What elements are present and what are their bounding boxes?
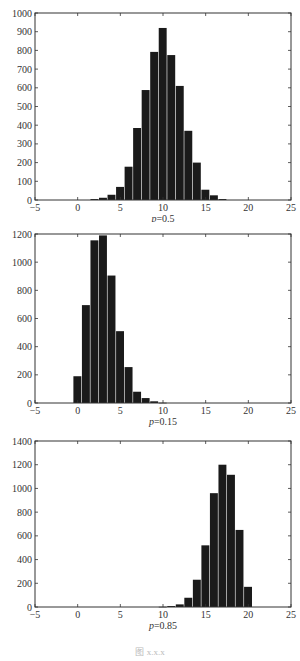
x-tick-label: 0 (75, 405, 80, 416)
histogram-bar (218, 465, 226, 607)
histogram-bar (133, 392, 141, 403)
histogram-bar (99, 235, 107, 403)
y-tick-label: 1000 (12, 257, 32, 268)
y-tick-label: 600 (17, 313, 32, 324)
x-tick-label: 20 (243, 202, 253, 213)
x-tick-label: 10 (158, 609, 168, 620)
subplot-caption: p=0.5 (150, 213, 174, 222)
y-tick-label: 900 (17, 26, 32, 37)
histogram-bar (142, 398, 150, 403)
histogram-bar (184, 131, 192, 200)
y-tick-label: 200 (17, 369, 32, 380)
histogram-bar (108, 276, 116, 403)
y-tick-label: 800 (17, 507, 32, 518)
y-tick-label: 1000 (12, 8, 32, 19)
x-tick-label: 15 (201, 202, 211, 213)
y-tick-label: 800 (17, 45, 32, 56)
y-tick-label: 400 (17, 554, 32, 565)
histogram-bar (184, 598, 192, 607)
histogram-bar (82, 305, 90, 403)
y-tick-label: 1400 (12, 436, 32, 447)
y-tick-label: 1200 (12, 229, 32, 240)
y-tick-label: 400 (17, 341, 32, 352)
y-tick-label: 100 (17, 176, 32, 187)
histogram-bar (159, 28, 167, 200)
histogram-bar (227, 475, 235, 607)
y-tick-label: 0 (27, 398, 32, 409)
x-tick-label: 10 (158, 405, 168, 416)
histogram-p-0-15: −50510152025020040060080010001200p=0.15 (0, 222, 300, 428)
y-tick-label: 300 (17, 138, 32, 149)
y-tick-label: 500 (17, 101, 32, 112)
x-tick-label: 25 (286, 609, 296, 620)
x-tick-label: 0 (75, 609, 80, 620)
y-tick-label: 600 (17, 530, 32, 541)
subplot-caption: p=0.85 (148, 620, 177, 631)
x-tick-label: 5 (118, 202, 123, 213)
x-tick-label: 15 (201, 405, 211, 416)
histogram-bar (73, 376, 81, 403)
histogram-plot-area: −50510152025020040060080010001200p=0.15 (0, 222, 300, 428)
x-tick-label: 20 (243, 609, 253, 620)
x-tick-label: 0 (75, 202, 80, 213)
histogram-p-0-5: −505101520250100200300400500600700800900… (0, 0, 300, 222)
y-tick-label: 600 (17, 82, 32, 93)
x-tick-label: 5 (118, 405, 123, 416)
histogram-plot-area: −505101520250200400600800100012001400p=0… (0, 428, 300, 638)
histogram-plot-area: −505101520250100200300400500600700800900… (0, 0, 300, 222)
x-tick-label: 20 (243, 405, 253, 416)
subplot-caption: p=0.15 (148, 416, 177, 427)
histogram-bar (125, 367, 133, 403)
y-tick-label: 200 (17, 578, 32, 589)
y-tick-label: 800 (17, 285, 32, 296)
x-tick-label: 25 (286, 405, 296, 416)
histogram-bar (236, 530, 244, 607)
histogram-bar (150, 52, 158, 200)
histogram-bar (193, 580, 201, 607)
y-tick-label: 1200 (12, 459, 32, 470)
histogram-bar (108, 195, 116, 200)
histogram-bar (116, 331, 124, 403)
histogram-bar (133, 128, 141, 200)
y-tick-label: 0 (27, 195, 32, 206)
figure-caption: 图 x.x.x (0, 645, 300, 658)
x-tick-label: 5 (118, 609, 123, 620)
y-tick-label: 200 (17, 157, 32, 168)
histogram-bar (176, 86, 184, 200)
histogram-bar (167, 55, 175, 200)
y-tick-label: 0 (27, 602, 32, 613)
histogram-p-0-85: −505101520250200400600800100012001400p=0… (0, 428, 300, 638)
x-tick-label: 15 (201, 609, 211, 620)
histogram-bar (210, 493, 218, 607)
y-tick-label: 400 (17, 120, 32, 131)
x-tick-label: 25 (286, 202, 296, 213)
histogram-bar (193, 163, 201, 200)
y-tick-label: 1000 (12, 483, 32, 494)
histogram-bar (210, 195, 218, 200)
histogram-bar (201, 545, 209, 607)
y-tick-label: 700 (17, 64, 32, 75)
histogram-bar (125, 167, 133, 200)
histogram-bar (90, 240, 98, 403)
plot-frame (35, 441, 291, 607)
histogram-bar (142, 90, 150, 200)
x-tick-label: 10 (158, 202, 168, 213)
histogram-bar (244, 587, 252, 607)
